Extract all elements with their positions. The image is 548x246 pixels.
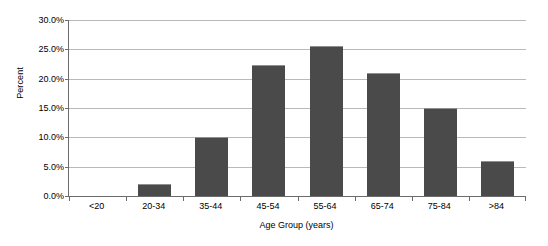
- x-tick-label: 65-74: [354, 201, 411, 211]
- x-tick-mark: [525, 196, 526, 201]
- x-tick-label: 45-54: [239, 201, 296, 211]
- y-axis-title: Percent: [15, 33, 25, 133]
- bar-slot: [183, 20, 240, 196]
- y-tick-label: 20.0%: [38, 74, 64, 84]
- x-tick-label: 75-84: [411, 201, 468, 211]
- bar: [195, 137, 228, 196]
- bar-slot: [355, 20, 412, 196]
- x-tick-label: 35-44: [182, 201, 239, 211]
- y-tick-label: 0.0%: [43, 191, 64, 201]
- bar: [367, 73, 400, 196]
- bar-slot: [412, 20, 469, 196]
- plot-area: 0.0%5.0%10.0%15.0%20.0%25.0%30.0%: [68, 20, 526, 197]
- y-tick-label: 5.0%: [43, 162, 64, 172]
- bar: [310, 46, 343, 196]
- bar-slot: [69, 20, 126, 196]
- x-tick-label: 55-64: [297, 201, 354, 211]
- y-tick-label: 15.0%: [38, 103, 64, 113]
- bar: [424, 108, 457, 196]
- bar-chart: Percent 0.0%5.0%10.0%15.0%20.0%25.0%30.0…: [0, 0, 548, 246]
- x-tick-label: >84: [468, 201, 525, 211]
- y-tick-label: 25.0%: [38, 44, 64, 54]
- x-axis-tick-labels: <2020-3435-4445-5455-6465-7475-84>84: [68, 201, 525, 211]
- y-tick-label: 10.0%: [38, 132, 64, 142]
- bar-slot: [469, 20, 526, 196]
- y-tick-label: 30.0%: [38, 15, 64, 25]
- x-axis-title: Age Group (years): [68, 220, 525, 230]
- bar-slot: [298, 20, 355, 196]
- bar: [138, 184, 171, 196]
- bar-slot: [240, 20, 297, 196]
- bar-slot: [126, 20, 183, 196]
- x-tick-label: 20-34: [125, 201, 182, 211]
- bar: [481, 161, 514, 196]
- x-tick-label: <20: [68, 201, 125, 211]
- bars-group: [69, 20, 526, 196]
- bar: [252, 65, 285, 196]
